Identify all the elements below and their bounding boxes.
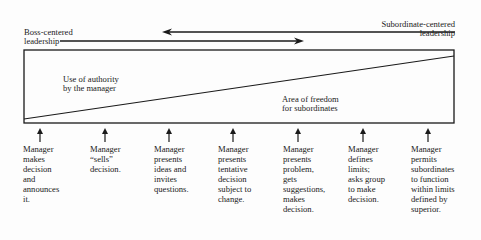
freedom-region-label: Area of freedom for subordinates [282,95,339,114]
behavior-caption-2: Manager “sells” decision. [90,144,121,174]
behavior-arrows [37,128,431,142]
behavior-caption-3: Manager presents ideas and invites quest… [154,144,189,194]
up-arrow-icon [230,128,236,142]
subordinate-centered-label: Subordinate-centered leadership [382,20,456,39]
behavior-caption-5: Manager presents problem, gets suggestio… [283,144,325,214]
up-arrow-icon [102,128,108,142]
up-arrow-icon [425,128,431,142]
behavior-caption-7: Manager permits subordinates to function… [411,144,455,214]
behavior-caption-6: Manager defines limits; asks group to ma… [348,144,385,204]
up-arrow-icon [37,128,43,142]
up-arrow-icon [166,128,172,142]
up-arrow-icon [295,128,301,142]
authority-region-label: Use of authority by the manager [63,75,119,94]
boss-centered-label: Boss-centered leadership [24,28,73,47]
behavior-caption-1: Manager makes decision and announces it. [23,144,59,204]
up-arrow-icon [360,128,366,142]
behavior-caption-4: Manager presents tentative decision subj… [218,144,251,204]
